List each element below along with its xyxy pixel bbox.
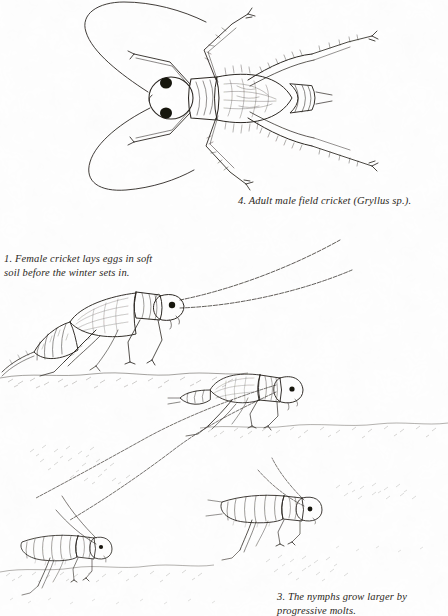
caption-female-lays-eggs: 1. Female cricket lays eggs in soft soil…	[4, 252, 152, 279]
nymph-early-eye	[99, 545, 103, 549]
paper-texture	[0, 0, 448, 616]
female-eye	[169, 302, 175, 308]
cricket-life-cycle-plate	[0, 0, 448, 616]
caption-nymphs-grow-larger: 3. The nymphs grow larger by progressive…	[277, 590, 407, 616]
compound-eye-left	[160, 78, 172, 89]
nymph-mid-eye	[308, 507, 313, 512]
compound-eye-right	[160, 108, 172, 119]
nymph-late-eye	[289, 386, 294, 391]
caption-adult-male-field-cricket: 4. Adult male field cricket (Gryllus sp.…	[238, 194, 411, 208]
